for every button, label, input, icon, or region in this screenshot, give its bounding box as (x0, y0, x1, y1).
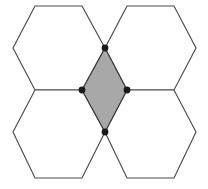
top-vertex-dot (102, 45, 109, 52)
left-vertex-dot (79, 87, 86, 94)
hexagon-tiling-diagram (0, 0, 208, 189)
bottom-vertex-dot (102, 129, 109, 136)
right-vertex-dot (124, 87, 131, 94)
figure-container (0, 0, 208, 189)
